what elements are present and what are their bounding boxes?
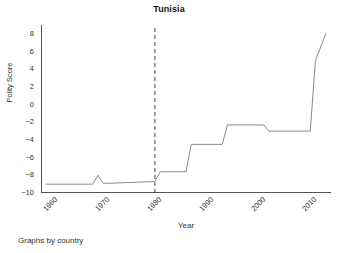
x-tick-label: 2000 — [245, 195, 267, 217]
y-axis-tick-labels: 86420−2−4−6−8−10 — [12, 25, 34, 193]
x-axis-label: Year — [41, 221, 331, 230]
plot-svg — [41, 25, 331, 193]
y-tick-label: −2 — [16, 118, 34, 126]
y-tick-label: −8 — [16, 171, 34, 179]
y-tick-label: −6 — [16, 154, 34, 162]
y-tick-label: 8 — [16, 30, 34, 38]
y-tick-label: 2 — [16, 83, 34, 91]
y-tick-label: −4 — [16, 136, 34, 144]
x-tick-label: 2010 — [297, 195, 319, 217]
x-tick-label: 1960 — [38, 195, 60, 217]
y-tick-label: 0 — [16, 101, 34, 109]
x-tick-label: 1990 — [193, 195, 215, 217]
chart-title: Tunisia — [0, 4, 338, 14]
x-tick-label: 1970 — [90, 195, 112, 217]
y-tick-label: −10 — [16, 189, 34, 197]
chart-footnote: Graphs by country — [18, 236, 83, 245]
polity-score-series-line — [46, 34, 326, 184]
y-tick-label: 6 — [16, 48, 34, 56]
plot-area — [41, 25, 331, 193]
y-tick-label: 4 — [16, 65, 34, 73]
x-tick-label: 1980 — [141, 195, 163, 217]
polity-score-chart-figure: Tunisia Polity Score 86420−2−4−6−8−10 19… — [0, 0, 338, 253]
